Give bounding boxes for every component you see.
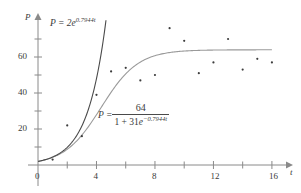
denominator-exponent: −0.7944t [143,115,167,122]
y-tick-label: 60 [18,51,27,61]
x-tick-label: 12 [210,171,219,181]
chart-plot-area [0,0,301,193]
denominator-prefix: 1 + 31 [114,117,138,127]
axes-group [28,13,293,186]
x-tick-label: 8 [152,171,157,181]
logistic-growth-chart: P t 0481216 204060 P = 2e0.7944t P =641 … [0,0,301,193]
exponential-model-curve [38,20,106,161]
logistic-numerator: 64 [112,103,169,114]
x-axis-label: t [290,167,293,177]
data-point [242,69,244,71]
data-point [212,61,214,63]
y-axis-label: P [25,12,31,22]
y-axis-arrowhead [35,13,42,20]
data-point [183,40,185,42]
data-point [110,70,112,72]
exponential-equation-label: P = 2e0.7944t [50,16,95,28]
data-point [154,74,156,76]
data-point [271,61,273,63]
data-point [168,27,170,29]
log-eq-lhs: P = [98,110,112,120]
data-point [95,94,97,96]
logistic-denominator: 1 + 31e−0.7944t [112,116,169,128]
exp-eq-exponent: 0.7944t [76,16,96,23]
y-tick-label: 40 [18,87,27,97]
data-point [198,72,200,74]
data-point [227,38,229,40]
x-tick-label: 16 [269,171,278,181]
y-tick-label: 20 [18,123,27,133]
exp-eq-lhs: P = 2 [50,18,72,28]
x-tick-label: 4 [93,171,98,181]
data-point [256,58,258,60]
logistic-fraction: 641 + 31e−0.7944t [112,103,169,128]
data-point [66,124,68,126]
x-tick-label: 0 [35,171,40,181]
data-point [125,67,127,69]
data-point [52,159,54,161]
logistic-equation-label: P =641 + 31e−0.7944t [98,103,169,128]
data-points-group [52,27,274,161]
data-point [139,79,141,81]
data-point [81,135,83,137]
